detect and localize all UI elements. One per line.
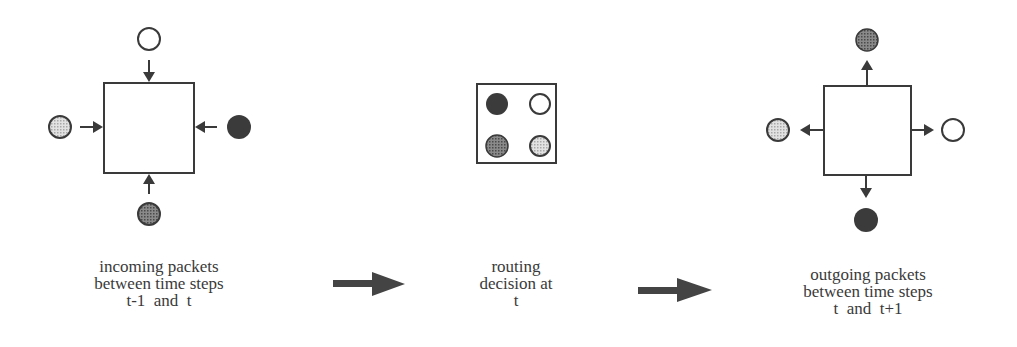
arrow-up-icon bbox=[143, 174, 155, 194]
caption-line: decision at bbox=[446, 275, 586, 292]
arrow-left-icon bbox=[195, 121, 217, 133]
routing-stage bbox=[477, 84, 556, 163]
black-packet-icon bbox=[854, 208, 878, 232]
caption-line: between time steps bbox=[49, 275, 269, 292]
caption-line: outgoing packets bbox=[768, 266, 968, 283]
incoming-stage bbox=[49, 28, 251, 225]
arrow-down-icon bbox=[143, 60, 155, 82]
caption-line: t-1 and t bbox=[49, 292, 269, 309]
white-packet-icon bbox=[530, 94, 550, 114]
white-packet-icon bbox=[138, 28, 160, 50]
black-packet-icon bbox=[227, 115, 251, 139]
black-packet-icon bbox=[486, 93, 508, 115]
incoming-caption: incoming packets between time steps t-1 … bbox=[49, 258, 269, 309]
outgoing-stage bbox=[767, 29, 964, 232]
dark-dotted-packet-icon bbox=[138, 203, 160, 225]
arrow-up-icon bbox=[861, 60, 873, 85]
outgoing-caption: outgoing packets between time steps t an… bbox=[768, 266, 968, 317]
transition-arrow-2 bbox=[638, 278, 712, 302]
transition-arrow-1 bbox=[333, 272, 405, 296]
caption-line: between time steps bbox=[768, 283, 968, 300]
light-dotted-packet-icon bbox=[530, 136, 550, 156]
dark-dotted-packet-icon bbox=[856, 29, 878, 51]
caption-line: t and t+1 bbox=[768, 300, 968, 317]
white-packet-icon bbox=[942, 119, 964, 141]
arrow-down-icon bbox=[860, 176, 872, 198]
arrow-right-icon bbox=[80, 121, 103, 133]
light-dotted-packet-icon bbox=[49, 116, 71, 138]
light-dotted-packet-icon bbox=[767, 119, 789, 141]
caption-line: t bbox=[446, 292, 586, 309]
caption-line: incoming packets bbox=[49, 258, 269, 275]
outgoing-node-box bbox=[824, 86, 911, 175]
incoming-node-box bbox=[104, 83, 194, 173]
arrow-left-icon bbox=[800, 124, 823, 136]
dark-dotted-packet-icon bbox=[486, 135, 508, 157]
arrow-right-icon bbox=[912, 124, 934, 136]
routing-caption: routing decision at t bbox=[446, 258, 586, 309]
caption-line: routing bbox=[446, 258, 586, 275]
